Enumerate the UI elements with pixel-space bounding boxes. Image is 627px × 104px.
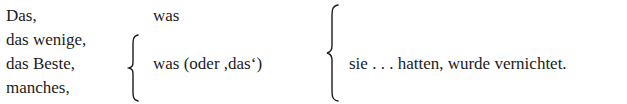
subject-manches: manches, [6,78,70,98]
relative-was: was [153,6,179,26]
subject-das-beste: das Beste, [6,54,75,74]
subject-das-wenige: das wenige, [6,30,86,50]
left-curly-brace-large [326,4,340,102]
predicate: sie . . . hatten, wurde vernichtet. [349,54,567,74]
relative-was-oder-das: was (oder ,das‘) [153,54,262,74]
left-curly-brace-small [128,34,140,102]
subject-das: Das, [6,6,37,26]
